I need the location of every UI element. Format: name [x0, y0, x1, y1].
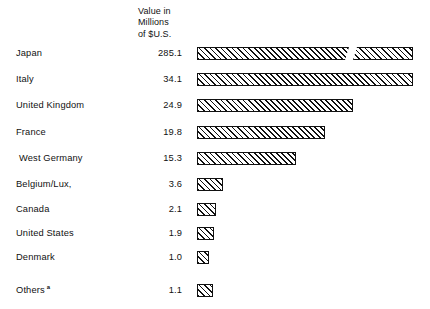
row-value: 1.0 — [120, 248, 182, 266]
chart-row: Belgium/Lux,3.6 — [0, 175, 430, 193]
row-value: 19.8 — [120, 123, 182, 141]
bar-segment-left — [197, 47, 349, 60]
axis-break-gap — [349, 47, 353, 60]
row-label: Japan — [16, 44, 42, 62]
chart-row: France19.8 — [0, 123, 430, 141]
row-label: Othersa — [16, 281, 50, 299]
row-label: West Germany — [19, 149, 83, 167]
chart-row: United Kingdom24.9 — [0, 96, 430, 114]
value-column-header: Value in Millions of $U.S. — [138, 6, 184, 40]
bar-container — [197, 251, 209, 264]
row-label: United Kingdom — [16, 96, 84, 114]
row-label: Belgium/Lux, — [16, 175, 72, 193]
row-value: 1.9 — [120, 224, 182, 242]
bar — [197, 251, 209, 264]
bar — [197, 203, 216, 216]
row-value: 34.1 — [120, 70, 182, 88]
bar — [197, 284, 213, 297]
bar-container — [197, 126, 325, 139]
value-header-line-1: Value in — [138, 6, 184, 17]
chart-row: Japan285.1 — [0, 44, 430, 62]
bar — [197, 73, 413, 86]
bar — [197, 126, 325, 139]
bar — [197, 152, 296, 165]
value-header-line-2: Millions — [138, 17, 184, 28]
bar — [197, 178, 223, 191]
chart-row: Italy34.1 — [0, 70, 430, 88]
value-header-line-3: of $U.S. — [138, 29, 184, 40]
row-label: France — [16, 123, 46, 141]
bar-container — [197, 152, 296, 165]
row-label: Canada — [16, 200, 49, 218]
bar-container — [197, 99, 353, 112]
chart-row: United States1.9 — [0, 224, 430, 242]
bar — [197, 227, 214, 240]
footnote-marker: a — [47, 284, 51, 290]
bar — [197, 99, 353, 112]
row-value: 3.6 — [120, 175, 182, 193]
bar-container — [197, 47, 413, 60]
bar-chart: Value in Millions of $U.S. Japan285.1Ita… — [0, 0, 430, 309]
row-value: 15.3 — [120, 149, 182, 167]
bar-segment-right — [353, 47, 413, 60]
chart-row: Denmark1.0 — [0, 248, 430, 266]
bar-container — [197, 284, 213, 297]
bar-container — [197, 203, 216, 216]
chart-row: Othersa1.1 — [0, 281, 430, 299]
row-label: Denmark — [16, 248, 55, 266]
row-value: 285.1 — [120, 44, 182, 62]
row-label: Italy — [16, 70, 34, 88]
bar-container — [197, 178, 223, 191]
chart-row: West Germany15.3 — [0, 149, 430, 167]
chart-row: Canada2.1 — [0, 200, 430, 218]
row-label: United States — [16, 224, 74, 242]
row-value: 2.1 — [120, 200, 182, 218]
row-value: 1.1 — [120, 281, 182, 299]
bar-container — [197, 227, 214, 240]
bar-container — [197, 73, 413, 86]
row-value: 24.9 — [120, 96, 182, 114]
